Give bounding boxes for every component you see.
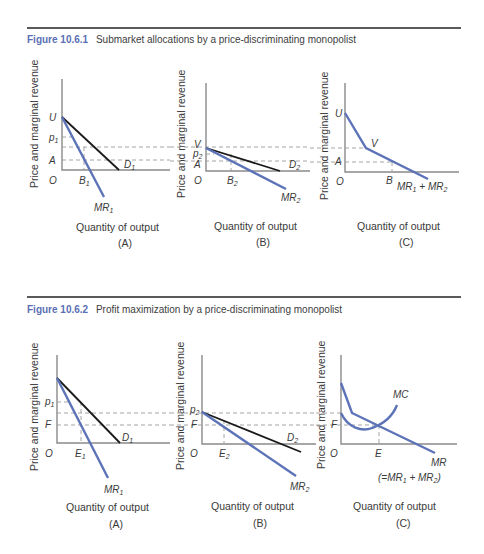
label-a: A <box>48 155 56 166</box>
axes <box>202 355 316 444</box>
y-axis-label: Price and marginal revenue <box>174 341 186 470</box>
panel-caption-a: (A) <box>118 237 132 249</box>
y-axis-label: Price and marginal revenue <box>318 71 330 200</box>
label-origin: O <box>49 175 57 186</box>
fig1-panel-c: Price and marginal revenue U V A O B MR1… <box>310 71 459 248</box>
axes <box>57 355 170 443</box>
axes <box>62 79 170 170</box>
fig2-panel-b: Price and marginal revenue p2 F O E2 D2 … <box>170 341 316 529</box>
x-axis-label: Quantity of output <box>357 220 440 232</box>
panel-caption-b: (B) <box>256 236 270 248</box>
label-origin: O <box>336 176 344 187</box>
fig2-panel-c: Price and marginal revenue MC F O E MR (… <box>315 340 457 529</box>
label-mr1-plus-mr2: MR1 + MR2 <box>397 181 447 193</box>
label-f: F <box>191 419 198 430</box>
label-f: F <box>331 419 338 430</box>
label-mc: MC <box>393 389 409 400</box>
label-mr2: MR2 <box>290 481 310 493</box>
axes <box>206 83 310 171</box>
axes <box>345 83 459 172</box>
label-mr: MR <box>431 457 447 468</box>
label-e1: E1 <box>75 448 86 460</box>
label-a: A <box>334 156 342 167</box>
x-axis-label: Quantity of output <box>353 500 436 512</box>
x-axis-label: Quantity of output <box>211 500 294 512</box>
fig1-panel-b: Price and marginal revenue V p2 A O B2 D… <box>170 69 310 248</box>
x-axis-label: Quantity of output <box>214 220 297 232</box>
y-axis-label: Price and marginal revenue <box>28 59 40 188</box>
y-axis-label: Price and marginal revenue <box>315 340 327 469</box>
label-origin: O <box>194 175 202 186</box>
label-d1: D1 <box>122 432 133 444</box>
label-a: A <box>193 159 201 170</box>
label-v: V <box>371 138 379 149</box>
label-origin: O <box>45 448 53 459</box>
demand-curve-d1 <box>57 378 120 443</box>
label-b1: B1 <box>79 175 90 187</box>
panel-caption-a: (A) <box>109 518 123 530</box>
label-b2: B2 <box>227 175 238 187</box>
demand-curve-d1 <box>62 117 119 170</box>
label-mr-sum: (=MR1 + MR2) <box>378 472 441 484</box>
mr-curve-mr1 <box>57 378 108 478</box>
label-b: B <box>386 175 393 186</box>
label-e: E <box>375 448 382 459</box>
label-p1: p1 <box>48 132 59 144</box>
y-axis-label: Price and marginal revenue <box>28 342 40 471</box>
x-axis-label: Quantity of output <box>66 501 149 513</box>
label-mr2: MR2 <box>281 192 301 204</box>
panel-caption-b: (B) <box>253 517 267 529</box>
label-f: F <box>45 419 52 430</box>
x-axis-label: Quantity of output <box>76 221 159 233</box>
fig2-panel-a: Price and marginal revenue p1 F O E1 D1 … <box>28 342 170 530</box>
label-origin: O <box>190 448 198 459</box>
label-p1: p1 <box>44 396 55 408</box>
y-axis-label: Price and marginal revenue <box>175 69 187 198</box>
label-e2: E2 <box>219 448 230 460</box>
panel-caption-c: (C) <box>399 236 414 248</box>
label-d1: D1 <box>124 159 135 171</box>
label-mr1: MR1 <box>104 484 124 496</box>
label-d2: D2 <box>287 432 298 444</box>
label-mr1: MR1 <box>94 202 114 214</box>
label-u: U <box>335 108 343 119</box>
figures-canvas: Price and marginal revenue U p1 A O B1 D… <box>0 0 484 554</box>
label-u: U <box>49 112 57 123</box>
fig1-panel-a: Price and marginal revenue U p1 A O B1 D… <box>28 59 170 249</box>
label-p2: p2 <box>189 404 200 416</box>
label-origin: O <box>330 448 338 459</box>
panel-caption-c: (C) <box>396 517 411 529</box>
mr-sum-curve <box>345 113 428 179</box>
